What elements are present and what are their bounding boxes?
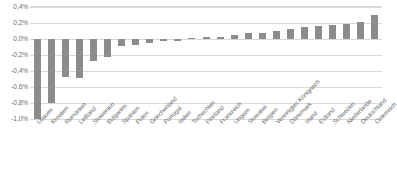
y-axis-tick-label: -0,8% [11, 99, 28, 106]
bar [188, 38, 195, 39]
bar [203, 37, 210, 39]
y-axis-tick-label: -0,4% [11, 67, 28, 74]
bar [118, 39, 125, 46]
bar [315, 26, 322, 39]
bar [76, 39, 83, 78]
y-axis-tick-label: 0,4% [13, 3, 28, 10]
bar [132, 39, 139, 45]
y-axis-tick-label: 0,2% [13, 19, 28, 26]
bar [329, 25, 336, 39]
y-axis-tick-label: -1,0% [11, 115, 28, 122]
bar [371, 15, 378, 39]
bar [34, 39, 41, 119]
y-axis: 0,4%0,2%0,0%-0,2%-0,4%-0,6%-0,8%-1,0% [0, 0, 30, 122]
y-axis-tick-label: 0,0% [13, 35, 28, 42]
bar [273, 31, 280, 39]
bar [217, 37, 224, 39]
bar [287, 29, 294, 39]
bar [90, 39, 97, 61]
bar [259, 33, 266, 39]
bar [231, 35, 238, 39]
bar [343, 24, 350, 39]
y-axis-tick-label: -0,6% [11, 83, 28, 90]
bar [301, 27, 308, 39]
bar [160, 39, 167, 41]
bar [357, 22, 364, 39]
bar [245, 33, 252, 39]
bar [174, 39, 181, 41]
bar [104, 39, 111, 57]
bar [48, 39, 55, 103]
bar [62, 39, 69, 77]
bar [146, 39, 153, 43]
y-axis-tick-label: -0,2% [11, 51, 28, 58]
x-axis-labels: LitauenKroatienRumänienLettlandSlowenien… [30, 120, 382, 178]
